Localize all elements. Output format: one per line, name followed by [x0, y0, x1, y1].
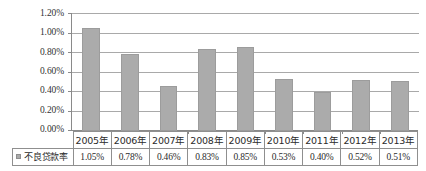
- bar: [198, 49, 216, 131]
- value-cell: 0.85%: [226, 149, 264, 166]
- table-row-categories: 2005年 2006年 2007年 2008年 2009年 2010年 2011…: [13, 132, 418, 149]
- category-cell: 2007年: [150, 132, 188, 149]
- y-axis-tick-label: 0.80%: [0, 47, 64, 57]
- category-cell: 2009年: [226, 132, 264, 149]
- bar-chart-figure: 1.20% 1.00% 0.80% 0.60% 0.40% 0.20% 0.00…: [0, 0, 426, 171]
- y-axis-labels: 1.20% 1.00% 0.80% 0.60% 0.40% 0.20% 0.00…: [0, 8, 68, 134]
- legend-square-icon: [16, 154, 21, 159]
- y-axis-tick-label: 1.20%: [0, 8, 64, 18]
- category-cell: 2006年: [111, 132, 149, 149]
- category-cell: 2008年: [188, 132, 226, 149]
- table-corner-cell: [13, 132, 74, 149]
- value-cell: 0.53%: [264, 149, 302, 166]
- category-cell: 2005年: [73, 132, 111, 149]
- legend-label: 不良贷款率: [24, 152, 68, 162]
- y-axis-tick-label: 1.00%: [0, 27, 64, 37]
- bar: [275, 79, 293, 131]
- bar: [391, 81, 409, 131]
- bar: [352, 80, 370, 131]
- bar: [82, 28, 100, 131]
- category-cell: 2012年: [341, 132, 379, 149]
- y-axis-tick-label: 0.20%: [0, 105, 64, 115]
- value-cell: 0.51%: [379, 149, 417, 166]
- value-cell: 0.78%: [111, 149, 149, 166]
- bar: [237, 47, 255, 131]
- bar-series: [72, 13, 419, 131]
- y-axis-tick-label: 0.40%: [0, 85, 64, 95]
- value-cell: 0.83%: [188, 149, 226, 166]
- category-cell: 2013年: [379, 132, 417, 149]
- category-cell: 2010年: [264, 132, 302, 149]
- table-row-values: 不良贷款率 1.05% 0.78% 0.46% 0.83% 0.85% 0.53…: [13, 149, 418, 166]
- bar: [121, 54, 139, 131]
- bar: [160, 86, 178, 131]
- value-cell: 1.05%: [73, 149, 111, 166]
- category-cell: 2011年: [303, 132, 341, 149]
- plot-area: [71, 13, 418, 131]
- value-cell: 0.46%: [150, 149, 188, 166]
- value-cell: 0.40%: [303, 149, 341, 166]
- value-cell: 0.52%: [341, 149, 379, 166]
- legend-entry: 不良贷款率: [13, 149, 74, 166]
- y-axis-tick-label: 0.60%: [0, 66, 64, 76]
- data-table: 2005年 2006年 2007年 2008年 2009年 2010年 2011…: [12, 131, 418, 166]
- bar: [314, 92, 332, 131]
